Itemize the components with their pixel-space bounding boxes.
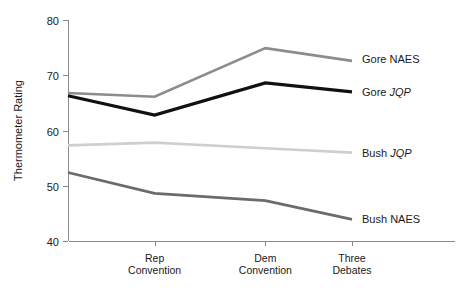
y-axis-tick-label: 40 <box>47 236 59 248</box>
svg-text:Rep: Rep <box>145 252 164 264</box>
y-axis-tick-label: 80 <box>47 15 59 27</box>
series-label-gore-naes: Gore NAES <box>362 53 419 65</box>
x-axis-category-label: DemConvention <box>239 252 292 276</box>
y-axis-tick-label: 70 <box>47 70 59 82</box>
series-line-gore-jqp <box>68 83 352 115</box>
chart-container: 4050607080Thermometer RatingRepConventio… <box>0 0 467 296</box>
series-line-bush-naes <box>68 172 352 219</box>
y-axis-tick-label: 50 <box>47 181 59 193</box>
line-chart: 4050607080Thermometer RatingRepConventio… <box>0 0 467 296</box>
x-axis-category-label: RepConvention <box>128 252 181 276</box>
svg-text:Dem: Dem <box>254 252 276 264</box>
svg-text:Three: Three <box>338 252 366 264</box>
series-label-bush-jqp: Bush JQP <box>362 147 412 159</box>
svg-text:Debates: Debates <box>332 264 371 276</box>
svg-text:Convention: Convention <box>239 264 292 276</box>
series-label-bush-naes: Bush NAES <box>362 213 420 225</box>
svg-text:Convention: Convention <box>128 264 181 276</box>
y-axis-title: Thermometer Rating <box>12 80 24 181</box>
x-axis-category-label: ThreeDebates <box>332 252 371 276</box>
series-line-bush-jqp <box>68 143 352 153</box>
y-axis-tick-label: 60 <box>47 126 59 138</box>
series-line-gore-naes <box>68 48 352 97</box>
series-label-gore-jqp: Gore JQP <box>362 86 412 98</box>
